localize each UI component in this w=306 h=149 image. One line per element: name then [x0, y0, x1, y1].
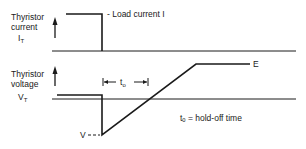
interval-label: to [120, 77, 126, 88]
hold-off-interval-marker: to [103, 77, 148, 88]
current-waveform [66, 14, 102, 51]
load-current-annotation: - Load current I [107, 9, 165, 19]
arrow-right-icon [143, 80, 147, 84]
diagram-canvas: Thyristor current IT - Load current I Th… [0, 0, 306, 149]
current-ylabel-symbol: IT [18, 33, 24, 44]
current-panel: Thyristor current IT - Load current I [11, 9, 296, 51]
current-ylabel-line1: Thyristor [11, 12, 44, 22]
voltage-ylabel-line1: Thyristor [11, 69, 44, 79]
arrow-left-icon [104, 80, 108, 84]
thyristor-waveform-diagram: Thyristor current IT - Load current I Th… [0, 0, 306, 149]
level-e-label: E [253, 59, 259, 69]
level-v-label: V [80, 130, 86, 140]
voltage-panel: Thyristor voltage VT E V to tₒ = hold-of… [11, 59, 296, 140]
arrow-up-icon [53, 17, 58, 25]
hold-off-legend: tₒ = hold-off time [180, 113, 242, 123]
current-ylabel-line2: current [11, 22, 38, 32]
voltage-ylabel-symbol: VT [18, 92, 28, 103]
voltage-ylabel-line2: voltage [11, 79, 39, 89]
arrow-up-icon [53, 66, 58, 74]
